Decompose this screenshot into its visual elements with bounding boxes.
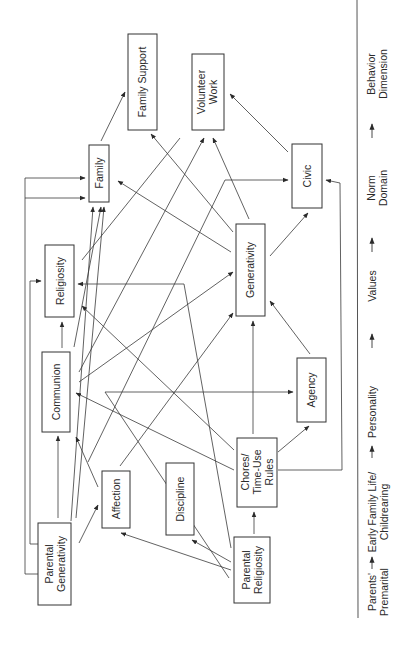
legend-stage-label: Childrearing <box>378 484 390 541</box>
node-volunteer-work: Volunteer Work <box>192 54 224 130</box>
edge-pgen-religiosity <box>30 281 41 544</box>
edge-communion-family <box>74 207 101 347</box>
node-family: Family <box>89 145 109 202</box>
node-discipline: Discipline <box>166 463 194 535</box>
node-label: Communion <box>50 364 62 421</box>
edge-chores-religiosity <box>82 306 234 450</box>
node-agency: Agency <box>297 358 326 422</box>
node-label: Volunteer <box>195 69 207 114</box>
node-label: Religiosity <box>54 256 66 305</box>
edge-civic-volunteer <box>230 94 288 152</box>
edge-pgen-affection <box>79 505 98 543</box>
node-label: Chores/ <box>239 454 251 491</box>
legend-stage-label: Parents' <box>366 573 378 611</box>
node-label: Family Support <box>136 47 148 118</box>
node-civic: Civic <box>292 144 322 208</box>
legend-stage-label: Norm <box>365 175 377 201</box>
edge-generativity-volunteer <box>213 138 249 219</box>
legend-stage-label: Personality <box>366 385 378 438</box>
edge-chores-civic <box>278 180 342 470</box>
edge-communion-civic <box>88 180 288 462</box>
legend-stage-label: Premarital <box>378 568 390 616</box>
node-label: Agency <box>305 372 317 408</box>
node-religiosity: Religiosity <box>45 245 74 317</box>
node-label: Family <box>93 157 105 189</box>
node-parental-religiosity: Parental Religiosity <box>234 537 270 603</box>
node-affection: Affection <box>102 471 130 528</box>
node-label: Discipline <box>174 476 186 521</box>
edge-generativity-familysupport <box>151 134 233 232</box>
node-label: Time-Use <box>251 449 263 494</box>
node-label: Parental <box>43 544 55 583</box>
node-label: Affection <box>110 479 122 520</box>
edge-agency-generativity <box>270 301 310 354</box>
path-diagram: Family Support Volunteer Work Family Civ… <box>0 0 407 662</box>
node-label: Rules <box>263 459 275 486</box>
node-label: Generativity <box>55 535 67 592</box>
legend-stage-label: Dimension <box>377 49 389 99</box>
legend-stage-label: Behavior <box>365 53 377 95</box>
edge-communion-generativity <box>79 272 233 382</box>
legend-stage-label: Domain <box>377 170 389 206</box>
node-chores-time-use-rules: Chores/ Time-Use Rules <box>237 438 277 507</box>
edge-family-familysupport <box>101 92 125 141</box>
node-generativity: Generativity <box>236 224 265 316</box>
node-label: Parental <box>240 550 252 589</box>
edge-generativity-family <box>118 181 231 252</box>
legend-stage-label: Early Family Life/ <box>366 472 378 553</box>
node-label: Work <box>207 79 219 104</box>
edge-affection-generativity <box>120 313 233 466</box>
node-label: Religiosity <box>252 545 264 594</box>
edge-outer-family <box>25 178 85 198</box>
edge-generativity-civic <box>270 213 308 256</box>
legend-divider <box>357 0 358 618</box>
legend: Behavior Dimension Norm Domain Values Pe… <box>365 49 390 616</box>
node-family-support: Family Support <box>128 34 157 130</box>
edge-prel-affection <box>121 533 231 570</box>
legend-stage-label: Values <box>366 270 378 301</box>
node-label: Generativity <box>244 241 256 298</box>
node-parental-generativity: Parental Generativity <box>38 523 71 605</box>
node-communion: Communion <box>42 352 70 432</box>
edge-chores-agency <box>278 426 309 452</box>
node-label: Civic <box>301 165 313 188</box>
